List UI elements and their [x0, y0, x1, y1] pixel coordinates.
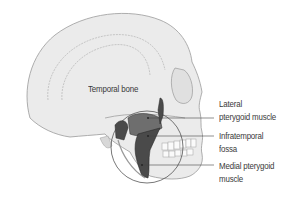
label-infratemporal-2: fossa [219, 144, 237, 155]
label-medial-pterygoid-1: Medial pterygoid [219, 161, 274, 172]
label-infratemporal-1: Infratemporal [219, 131, 263, 142]
label-lateral-pterygoid-1: Lateral [219, 99, 242, 110]
label-lateral-pterygoid-2: pterygoid muscle [219, 112, 276, 123]
label-medial-pterygoid-2: muscle [219, 174, 243, 185]
label-temporal-bone: Temporal bone [88, 84, 138, 95]
